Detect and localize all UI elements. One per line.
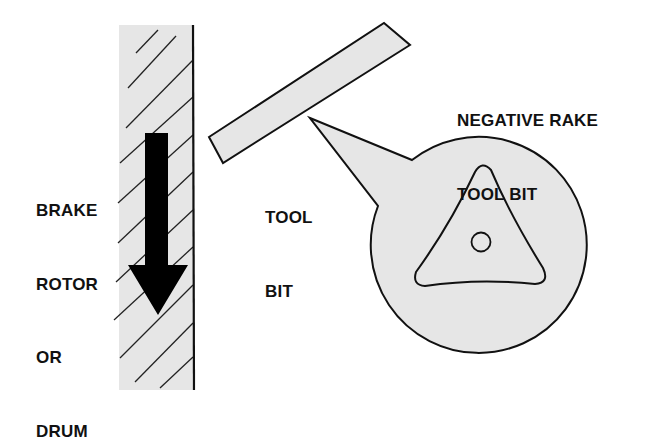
label-line: ROTOR xyxy=(36,273,98,298)
label-line: BRAKE xyxy=(36,199,98,224)
brake-rotor-label: BRAKE ROTOR OR DRUM xyxy=(36,150,98,441)
label-line: BIT xyxy=(265,280,313,305)
label-line: NEGATIVE RAKE xyxy=(457,109,598,134)
label-line: DRUM xyxy=(36,420,98,441)
label-line: OR xyxy=(36,346,98,371)
label-line: TOOL xyxy=(265,206,313,231)
rotor-surface-line xyxy=(193,25,194,390)
tool-bit xyxy=(209,23,410,163)
label-line: TOOL BIT xyxy=(457,183,598,208)
tool-bit-label: TOOL BIT xyxy=(265,157,313,329)
negative-rake-label: NEGATIVE RAKE TOOL BIT xyxy=(457,60,598,232)
